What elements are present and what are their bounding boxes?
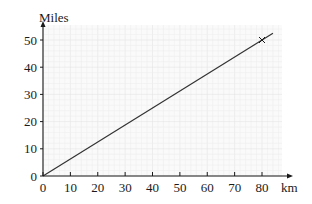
x-axis-title: km [281,180,298,195]
x-tick-label: 80 [256,180,269,195]
y-axis-ticks: 01020304050 [24,33,43,184]
y-tick-label: 20 [24,114,37,129]
y-tick-label: 0 [31,169,38,184]
x-tick-label: 10 [64,180,77,195]
chart-canvas: 01020304050607080 01020304050 km Miles [0,0,312,204]
x-tick-label: 60 [201,180,214,195]
y-tick-label: 30 [24,87,37,102]
y-tick-label: 40 [24,60,37,75]
y-tick-label: 50 [24,33,37,48]
x-tick-label: 30 [119,180,132,195]
x-tick-label: 70 [228,180,241,195]
x-tick-label: 0 [40,180,47,195]
x-tick-label: 50 [173,180,186,195]
x-axis-arrow-icon [287,174,293,179]
y-tick-label: 10 [24,141,37,156]
y-axis-title: Miles [39,10,69,25]
x-tick-label: 40 [146,180,159,195]
x-tick-label: 20 [91,180,104,195]
